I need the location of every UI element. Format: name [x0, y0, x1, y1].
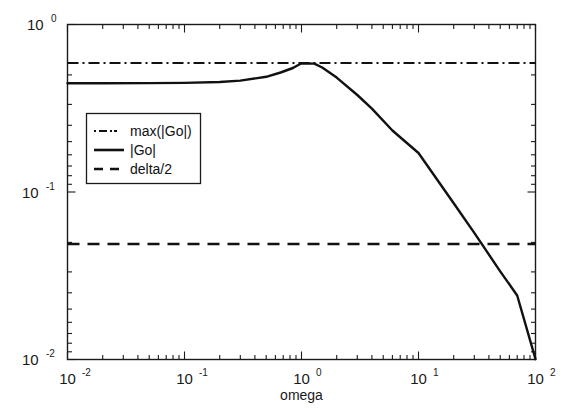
y-tick-label-2: 10 -2	[22, 348, 55, 368]
x-tick-labels: 10 -2 10 -1 10 0 10 1 10 2	[59, 367, 556, 387]
x-tick-label-4: 10 2	[527, 367, 556, 387]
y-tick-labels: 10 0 10 -1 10 -2	[22, 13, 57, 368]
x-tick-base-4: 10	[527, 370, 544, 387]
y-tick-base-0: 10	[27, 16, 44, 33]
x-tick-label-3: 10 1	[410, 367, 439, 387]
x-tick-exp-3: 1	[433, 367, 439, 378]
figure-canvas: 10 -2 10 -1 10 0 10 1 10 2 10 0 10 -1	[0, 0, 572, 418]
y-tick-label-0: 10 0	[27, 13, 57, 33]
y-tick-exp-2: -2	[46, 348, 55, 359]
y-tick-exp-0: 0	[51, 13, 57, 24]
x-tick-base-1: 10	[176, 370, 193, 387]
x-tick-base-2: 10	[293, 370, 310, 387]
x-axis-label: omega	[280, 387, 323, 403]
x-tick-exp-0: -2	[82, 367, 91, 378]
x-tick-label-2: 10 0	[293, 367, 322, 387]
legend-label-delta-half: delta/2	[130, 161, 172, 177]
y-tick-label-1: 10 -1	[22, 181, 55, 201]
y-tick-base-1: 10	[22, 184, 39, 201]
y-tick-base-2: 10	[22, 351, 39, 368]
x-tick-base-3: 10	[410, 370, 427, 387]
legend: max(|Go|) |Go| delta/2	[87, 114, 201, 184]
y-tick-exp-1: -1	[46, 181, 55, 192]
legend-label-max-go: max(|Go|)	[130, 123, 192, 139]
x-tick-exp-1: -1	[199, 367, 208, 378]
legend-label-go: |Go|	[130, 142, 156, 158]
x-tick-base-0: 10	[59, 370, 76, 387]
x-tick-exp-4: 2	[550, 367, 556, 378]
plot-frame	[68, 25, 536, 360]
x-tick-exp-2: 0	[316, 367, 322, 378]
x-tick-label-1: 10 -1	[176, 367, 208, 387]
x-tick-label-0: 10 -2	[59, 367, 91, 387]
